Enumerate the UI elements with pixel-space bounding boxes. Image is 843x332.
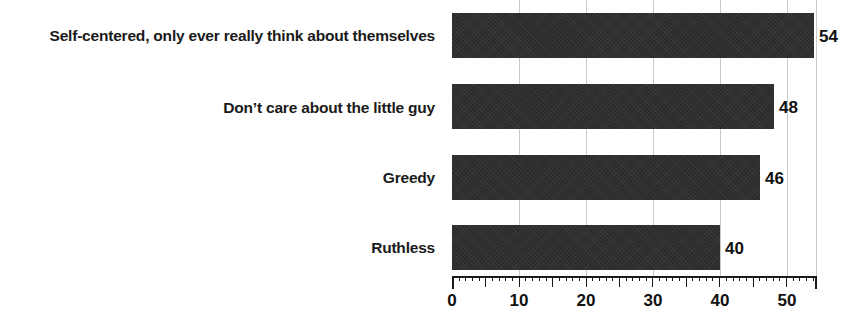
x-tick-43 (739, 276, 740, 281)
x-tick-34 (679, 276, 680, 281)
x-tick-label-40: 40 (711, 292, 730, 309)
x-tick-22 (599, 276, 600, 281)
x-tick-29 (646, 276, 647, 281)
x-tick-label-20: 20 (577, 292, 596, 309)
x-tick-12 (532, 276, 533, 281)
x-tick-19 (579, 276, 580, 281)
category-axis-labels: Self-centered, only ever really think ab… (0, 0, 445, 280)
x-tick-26 (626, 276, 627, 281)
gridline-right-edge (816, 0, 817, 276)
x-axis-cap-left (452, 276, 454, 289)
x-axis-cap-right (815, 276, 817, 289)
x-tick-3 (472, 276, 473, 281)
x-tick-44 (746, 276, 747, 281)
bar-value-greedy: 46 (765, 170, 784, 187)
bar-value-dont-care: 48 (779, 99, 798, 116)
x-tick-42 (733, 276, 734, 281)
x-tick-20 (586, 276, 587, 287)
x-tick-27 (632, 276, 633, 281)
x-tick-45 (753, 276, 754, 287)
bar-chart: Self-centered, only ever really think ab… (0, 0, 843, 332)
x-tick-25 (619, 276, 620, 287)
plot-area: 54 48 46 40 (452, 0, 816, 276)
x-tick-label-50: 50 (778, 292, 797, 309)
x-tick-18 (572, 276, 573, 281)
x-tick-21 (592, 276, 593, 281)
bar-ruthless (452, 225, 720, 270)
x-tick-33 (672, 276, 673, 281)
x-tick-52 (799, 276, 800, 281)
x-tick-51 (793, 276, 794, 281)
bar-value-ruthless: 40 (725, 240, 744, 257)
category-label-greedy: Greedy (0, 170, 435, 186)
x-tick-17 (566, 276, 567, 281)
x-tick-7 (499, 276, 500, 281)
x-tick-11 (525, 276, 526, 281)
x-axis-line (452, 276, 817, 278)
x-tick-54 (813, 276, 814, 281)
x-tick-label-10: 10 (510, 292, 529, 309)
x-tick-2 (465, 276, 466, 281)
x-tick-4 (479, 276, 480, 281)
category-label-self-centered: Self-centered, only ever really think ab… (0, 28, 435, 44)
x-tick-48 (773, 276, 774, 281)
category-label-ruthless: Ruthless (0, 240, 435, 256)
x-tick-23 (606, 276, 607, 281)
x-tick-37 (699, 276, 700, 281)
x-tick-49 (779, 276, 780, 281)
x-tick-14 (546, 276, 547, 281)
bar-value-self-centered: 54 (819, 28, 838, 45)
x-tick-32 (666, 276, 667, 281)
x-tick-15 (552, 276, 553, 287)
x-tick-30 (652, 276, 653, 287)
x-tick-35 (686, 276, 687, 287)
bar-dont-care (452, 84, 774, 129)
x-tick-24 (612, 276, 613, 281)
x-tick-9 (512, 276, 513, 281)
x-tick-47 (766, 276, 767, 281)
x-tick-31 (659, 276, 660, 281)
x-tick-36 (692, 276, 693, 281)
x-tick-1 (459, 276, 460, 281)
x-tick-16 (559, 276, 560, 281)
x-tick-38 (706, 276, 707, 281)
x-tick-8 (505, 276, 506, 281)
x-tick-6 (492, 276, 493, 281)
x-axis: 0 10 20 30 40 50 (452, 276, 817, 332)
x-tick-label-30: 30 (644, 292, 663, 309)
x-tick-41 (726, 276, 727, 281)
x-tick-39 (712, 276, 713, 281)
x-tick-28 (639, 276, 640, 281)
category-label-dont-care: Don’t care about the little guy (0, 100, 435, 116)
bar-self-centered (452, 13, 814, 58)
x-tick-46 (759, 276, 760, 281)
x-tick-50 (786, 276, 787, 287)
x-tick-label-0: 0 (447, 292, 456, 309)
x-tick-10 (519, 276, 520, 287)
bar-greedy (452, 155, 760, 200)
x-tick-40 (719, 276, 720, 287)
x-tick-5 (485, 276, 486, 287)
x-tick-13 (539, 276, 540, 281)
x-tick-53 (806, 276, 807, 281)
